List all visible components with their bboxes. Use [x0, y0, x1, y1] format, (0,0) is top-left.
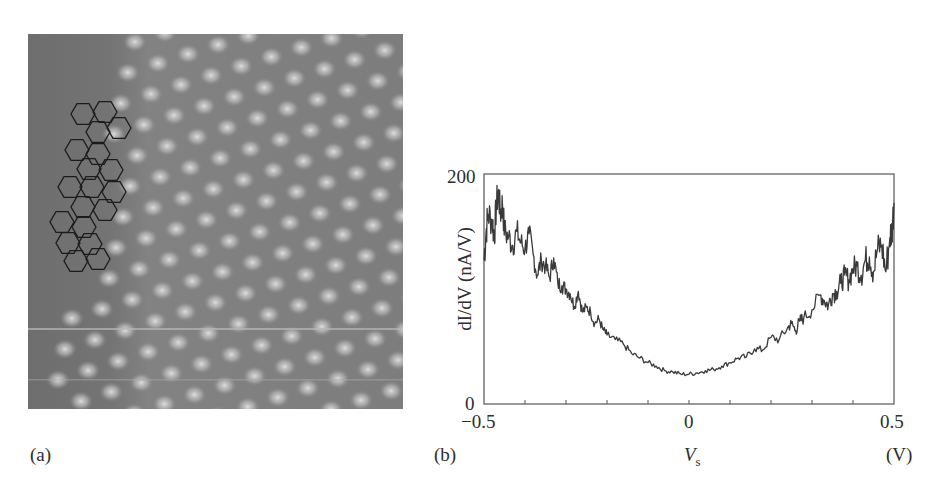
x-tick-0: 0	[684, 411, 694, 433]
x-tick-0-5: 0.5	[880, 411, 904, 433]
panel-label-b: (b)	[434, 444, 456, 466]
didv-curve	[484, 186, 894, 376]
y-axis-quantity: dI/dV	[454, 287, 475, 331]
x-axis-subscript: s	[696, 454, 701, 469]
plot-frame	[484, 174, 894, 404]
y-axis-label: dI/dV (nA/V)	[454, 204, 476, 354]
x-axis-symbol: V	[684, 444, 696, 465]
y-axis-unit: (nA/V)	[454, 227, 475, 282]
y-tick-200: 200	[447, 166, 476, 188]
x-tick-minus-0-5: −0.5	[461, 411, 495, 433]
x-axis-ticks	[525, 400, 853, 404]
x-axis-label: Vs	[684, 444, 701, 470]
x-axis-unit: (V)	[886, 444, 912, 466]
